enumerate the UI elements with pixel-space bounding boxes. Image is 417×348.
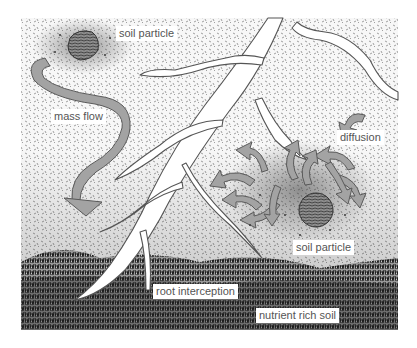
label-root-interception: root interception <box>153 284 238 299</box>
label-nutrient-rich-soil: nutrient rich soil <box>256 308 339 323</box>
label-soil-particle-top: soil particle <box>116 26 177 41</box>
soil-particle-top <box>68 31 98 60</box>
soil-particle-bottom <box>299 193 333 227</box>
label-soil-particle-bottom: soil particle <box>293 240 354 255</box>
label-mass-flow: mass flow <box>51 109 106 124</box>
label-diffusion: diffusion <box>337 130 384 145</box>
